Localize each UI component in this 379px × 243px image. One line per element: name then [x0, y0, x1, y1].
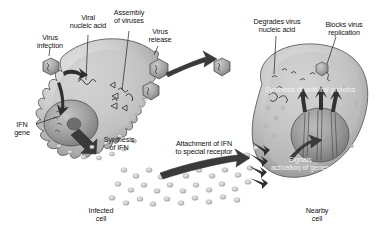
virus-spread-arrow	[166, 51, 217, 77]
nearby-cell-nucleus	[291, 108, 349, 162]
label-signals-activation-of-genes: Signals activation of genes	[258, 156, 342, 173]
label-synthesis-of-ifn: Synthesis of IFN	[96, 136, 142, 153]
virus-particle-released-3	[214, 58, 230, 76]
label-virus-release: Virus release	[140, 28, 180, 45]
label-degrades-virus-nucleic-acid: Degrades virus nucleic acid	[243, 18, 311, 35]
label-ifn-gene: IFN gene	[9, 121, 35, 138]
interferon-diagram: Virus infection Viral nucleic acid Assem…	[0, 0, 379, 243]
label-virus-infection: Virus infection	[24, 34, 76, 51]
infected-cell-nucleolus	[67, 118, 81, 130]
label-blocks-virus-replication: Blocks virus replication	[315, 21, 373, 38]
label-nearby-cell: Nearby cell	[295, 207, 339, 224]
label-synthesis-of-antiviral-proteins: Synthesis of antiviral proteins	[254, 86, 366, 94]
label-infected-cell: Infected cell	[79, 207, 123, 224]
label-assembly-of-viruses: Assembly of viruses	[103, 9, 155, 26]
label-attachment-of-ifn: Attachment of IFN to special receptor	[161, 140, 247, 157]
virus-particle-infecting	[43, 58, 59, 75]
